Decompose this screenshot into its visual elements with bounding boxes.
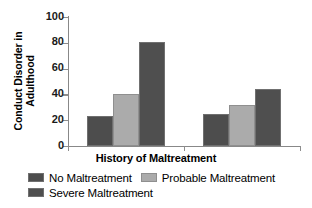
bar-no-maltreatment-group-2 bbox=[203, 114, 229, 146]
bar-probable-maltreatment-group-2 bbox=[229, 105, 255, 146]
x-axis-tick-middle bbox=[184, 146, 185, 151]
legend-label-probable-maltreatment: Probable Maltreatment bbox=[162, 172, 275, 184]
bar-chart-figure: Conduct Disorder in Adulthood 0204060801… bbox=[0, 0, 312, 208]
legend-label-no-maltreatment: No Maltreatment bbox=[49, 172, 132, 184]
chart-legend: No Maltreatment Probable Maltreatment Se… bbox=[28, 170, 312, 200]
y-axis-tick-label: 60 bbox=[52, 61, 64, 73]
x-axis-label: History of Maltreatment bbox=[0, 152, 312, 164]
y-axis-tick-label: 20 bbox=[52, 113, 64, 125]
y-axis-label: Conduct Disorder in Adulthood bbox=[9, 6, 39, 156]
plot-area: 020406080100 bbox=[68, 17, 300, 146]
x-axis-tick-end bbox=[300, 146, 301, 151]
legend-item-probable-maltreatment: Probable Maltreatment bbox=[141, 172, 275, 184]
legend-swatch-icon-no-maltreatment bbox=[28, 173, 44, 182]
legend-swatch-icon-probable-maltreatment bbox=[141, 173, 157, 182]
legend-swatch-icon-severe-maltreatment bbox=[28, 188, 44, 197]
bar-severe-maltreatment-group-2 bbox=[255, 89, 281, 146]
y-axis-tick-label: 40 bbox=[52, 87, 64, 99]
y-axis-tick-label: 80 bbox=[52, 35, 64, 47]
y-axis-tick-label: 0 bbox=[58, 139, 64, 151]
bar-probable-maltreatment-group-1 bbox=[113, 94, 139, 146]
y-axis-tick-label: 100 bbox=[46, 10, 64, 22]
y-axis-label-line-1: Conduct Disorder in bbox=[12, 31, 25, 130]
bar-severe-maltreatment-group-1 bbox=[139, 42, 165, 146]
bar-no-maltreatment-group-1 bbox=[87, 116, 113, 146]
legend-row-2: Severe Maltreatment bbox=[28, 185, 312, 200]
x-axis-tick-start bbox=[68, 146, 69, 151]
legend-row-1: No Maltreatment Probable Maltreatment bbox=[28, 170, 312, 185]
legend-item-no-maltreatment: No Maltreatment bbox=[28, 172, 132, 184]
y-axis-label-line-2: Adulthood bbox=[24, 55, 37, 107]
legend-item-severe-maltreatment: Severe Maltreatment bbox=[28, 187, 153, 199]
legend-label-severe-maltreatment: Severe Maltreatment bbox=[49, 187, 153, 199]
